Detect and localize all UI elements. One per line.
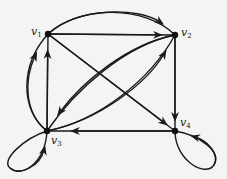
- node-v4: [172, 128, 178, 134]
- edge-v1-v2-arc: [48, 12, 175, 35]
- edge-v3-v1-arc: [27, 34, 48, 131]
- directed-graph: v1 v2 v3 v4: [0, 0, 227, 179]
- label-v4: v4: [180, 116, 191, 130]
- label-v1: v1: [31, 25, 42, 39]
- label-v2: v2: [181, 26, 192, 40]
- node-v3: [44, 128, 50, 134]
- edge-v1-v4: [48, 34, 175, 131]
- edge-v3-loop: [8, 131, 47, 171]
- node-v2: [172, 32, 178, 38]
- label-v3: v3: [51, 134, 62, 148]
- edge-v1-v2-straight: [48, 34, 175, 35]
- node-v1: [45, 31, 51, 37]
- edge-v3-v1-straight: [47, 34, 48, 131]
- edge-v4-loop: [175, 131, 216, 169]
